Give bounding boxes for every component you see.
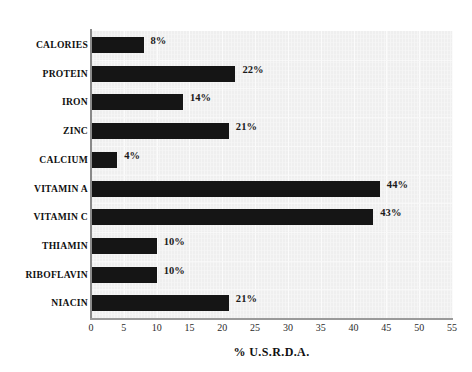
x-axis-tick-labels: 0510152025303540455055 [0,322,472,338]
x-tick-label: 0 [76,322,106,333]
bar-row: 8% [91,31,452,60]
category-label: ZINC [0,125,88,136]
x-tick-label: 50 [404,322,434,333]
bar-value-label: 21% [236,121,257,132]
x-tick-label: 10 [142,322,172,333]
bar [91,295,229,311]
bar-value-label: 10% [164,236,185,247]
bar-row: 14% [91,88,452,117]
bar-row: 44% [91,175,452,204]
category-label: CALORIES [0,39,88,50]
bar-value-label: 44% [387,179,408,190]
y-axis-line [90,29,92,320]
bar-value-label: 43% [380,207,401,218]
bar [91,66,235,82]
bar [91,267,157,283]
x-tick-label: 45 [371,322,401,333]
category-axis-labels: CALORIESPROTEINIRONZINCCALCIUMVITAMIN AV… [0,31,88,318]
bar [91,123,229,139]
x-tick-label: 35 [306,322,336,333]
bar [91,238,157,254]
category-label: VITAMIN C [0,211,88,222]
category-label: NIACIN [0,297,88,308]
bar [91,37,144,53]
bar-value-label: 10% [164,265,185,276]
x-axis-title: % U.S.R.D.A. [91,345,452,360]
bar [91,181,380,197]
x-tick-label: 5 [109,322,139,333]
bar [91,152,117,168]
x-tick-label: 25 [240,322,270,333]
bar [91,94,183,110]
bar-row: 22% [91,60,452,89]
category-label: PROTEIN [0,68,88,79]
bar [91,209,373,225]
bar-value-label: 21% [236,293,257,304]
category-label: THIAMIN [0,240,88,251]
x-axis-line [90,318,453,320]
bar-row: 43% [91,203,452,232]
bar-row: 4% [91,146,452,175]
x-tick-label: 20 [207,322,237,333]
plot-area: 8%22%14%21%4%44%43%10%10%21% [91,31,452,318]
bar-value-label: 14% [190,92,211,103]
x-tick-label: 40 [339,322,369,333]
bar-value-label: 22% [242,64,263,75]
category-label: CALCIUM [0,154,88,165]
bar-row: 21% [91,117,452,146]
bar-row: 10% [91,261,452,290]
category-label: RIBOFLAVIN [0,269,88,280]
vertical-gridline [452,31,453,318]
bar-row: 21% [91,289,452,318]
bar-row: 10% [91,232,452,261]
category-label: IRON [0,96,88,107]
x-tick-label: 15 [174,322,204,333]
bar-value-label: 8% [151,35,167,46]
category-label: VITAMIN A [0,183,88,194]
x-tick-label: 55 [437,322,467,333]
x-tick-label: 30 [273,322,303,333]
bar-value-label: 4% [124,150,140,161]
bar-chart: 8%22%14%21%4%44%43%10%10%21% CALORIESPRO… [0,0,472,372]
